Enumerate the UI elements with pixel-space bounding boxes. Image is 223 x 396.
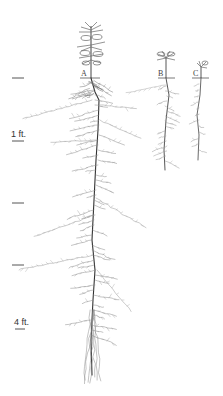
rootlet (75, 287, 76, 288)
root-system-illustration (0, 0, 223, 396)
rootlet (99, 202, 101, 203)
rootlet (194, 103, 196, 104)
rootlet (108, 314, 110, 317)
rootlet (117, 293, 119, 294)
rootlet (104, 85, 106, 87)
lateral-root (165, 91, 178, 94)
lateral-root (67, 210, 94, 220)
lateral-root (199, 126, 204, 128)
lateral-root (98, 160, 117, 164)
rootlet (31, 114, 33, 116)
rootlet (86, 143, 88, 145)
rootlet (81, 167, 83, 169)
rootlet (82, 94, 85, 95)
rootlet (83, 83, 85, 86)
rootlet (127, 305, 129, 306)
lateral-root (75, 115, 99, 121)
lateral-root (100, 120, 141, 138)
rootlet (89, 189, 91, 191)
lateral-root (71, 240, 92, 245)
rootlet (109, 87, 111, 90)
rootlet (104, 258, 105, 259)
rootlet (101, 318, 102, 320)
rootlet (72, 113, 74, 117)
rootlet (64, 225, 65, 226)
rootlet (160, 103, 162, 104)
lateral-root (93, 230, 108, 236)
lateral-root (78, 265, 94, 268)
rootlet (88, 111, 90, 112)
rootlet (26, 268, 28, 272)
scale-label-4ft: 4 ft. (14, 318, 29, 327)
lateral-root (167, 111, 180, 116)
rootlet (75, 150, 77, 151)
rootlet (79, 127, 80, 129)
lateral-root (196, 90, 199, 91)
rootlet (111, 151, 113, 153)
rootlet (102, 327, 104, 329)
rootlet (79, 320, 81, 322)
lateral-root (94, 205, 105, 209)
rootlet (109, 294, 111, 298)
lateral-root (152, 146, 167, 152)
lateral-root (79, 220, 94, 225)
rootlet (74, 129, 75, 130)
lateral-root (77, 235, 93, 238)
lateral-root (167, 96, 173, 98)
lateral-root (192, 144, 199, 147)
rootlet (90, 139, 91, 140)
rootlet (149, 88, 151, 90)
rootlet (53, 229, 56, 230)
rootlet (61, 258, 63, 261)
lateral-root (194, 84, 199, 86)
rootlet (85, 99, 87, 102)
rootlet (102, 173, 104, 176)
rootlet (126, 108, 128, 112)
rootlet (159, 153, 161, 154)
rootlet (120, 127, 122, 129)
lateral-root (80, 225, 94, 231)
lateral-root (194, 96, 199, 97)
rootlet (97, 324, 99, 326)
lateral-root (80, 82, 93, 87)
rootlet (103, 150, 104, 152)
rootlet (89, 270, 91, 271)
rootlet (71, 152, 73, 153)
lateral-root (96, 180, 111, 183)
rootlet (171, 112, 173, 113)
rootlet (102, 275, 105, 276)
rootlet (105, 120, 107, 122)
lateral-root (165, 161, 179, 168)
rootlet (111, 206, 113, 207)
rootlet (114, 139, 116, 141)
rootlet (41, 112, 42, 113)
lateral-root (92, 250, 115, 259)
rootlet (85, 139, 86, 141)
rootlet (84, 212, 85, 213)
rootlet (104, 281, 105, 283)
rootlet (80, 240, 82, 242)
rootlet (101, 95, 103, 96)
depth-scale (12, 78, 25, 329)
rootlet (115, 126, 117, 127)
rootlet (78, 211, 81, 215)
rootlet (159, 86, 161, 88)
lateral-root (66, 320, 93, 325)
rootlet (42, 264, 43, 265)
plant-label-c: C (193, 70, 198, 78)
rootlet (36, 114, 37, 115)
lateral-root (199, 150, 207, 153)
rootlet (92, 126, 94, 127)
rootlet (46, 262, 48, 264)
rootlet (66, 105, 67, 106)
lateral-root (199, 132, 205, 134)
lateral-root (165, 121, 176, 126)
rootlet (45, 111, 48, 113)
plant-label-b: B (158, 70, 163, 78)
rootlet (51, 260, 54, 263)
lateral-root (92, 245, 105, 250)
rootlet (26, 118, 27, 120)
rootlet (86, 299, 88, 302)
lateral-root (158, 86, 166, 90)
rootlet (72, 267, 73, 268)
